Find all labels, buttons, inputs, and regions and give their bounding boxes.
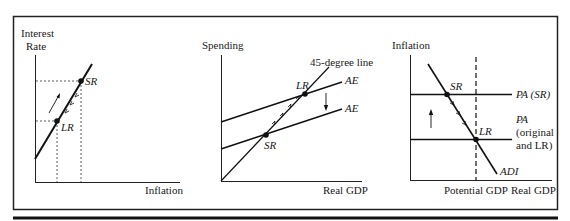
x-axis-label: Real GDP xyxy=(511,184,556,196)
policy-line xyxy=(35,64,92,159)
ae-upper-line xyxy=(221,82,342,122)
point-sr xyxy=(444,92,450,98)
point-sr-label: SR xyxy=(450,80,463,92)
point-sr-label: SR xyxy=(85,75,98,87)
y-axis-label: Inflation xyxy=(392,39,430,51)
point-sr xyxy=(263,132,269,138)
pa-original-label: and LR) xyxy=(516,139,553,152)
arrowhead-icon xyxy=(429,109,433,115)
potential-gdp-label: Potential GDP xyxy=(444,184,508,196)
point-lr-label: LR xyxy=(478,125,492,137)
pa-sr-label: PA (SR) xyxy=(515,88,550,101)
y-axis-label: Spending xyxy=(202,39,244,51)
point-lr-label: LR xyxy=(295,79,309,91)
point-lr xyxy=(54,118,60,124)
forty-five-degree-label: 45-degree line xyxy=(310,56,373,68)
macro-adjustment-diagram: Interest Rate Inflation SR LR Spending R… xyxy=(0,0,570,221)
x-axis-label: Real GDP xyxy=(323,184,368,196)
pa-original-label: PA xyxy=(515,113,528,125)
ae-upper-label: AE xyxy=(344,74,359,86)
adi-line xyxy=(428,64,497,174)
point-sr xyxy=(78,78,84,84)
point-sr-label: SR xyxy=(264,139,277,151)
y-axis-label: Interest xyxy=(21,27,54,39)
point-lr xyxy=(302,91,308,97)
pa-original-label: (original xyxy=(516,126,554,139)
arrowhead-icon xyxy=(324,105,328,111)
arrow-up-icon xyxy=(49,95,59,113)
panel-inflation: Inflation Potential GDP Real GDP PA (SR)… xyxy=(392,39,556,196)
panel-spending: Spending Real GDP 45-degree line AE AE L… xyxy=(202,39,373,196)
y-axis-label: Rate xyxy=(26,40,46,52)
point-lr-label: LR xyxy=(60,121,74,133)
ae-lower-label: AE xyxy=(344,102,359,114)
adi-label: ADI xyxy=(499,165,520,177)
point-lr xyxy=(473,137,479,143)
forty-five-degree-line xyxy=(221,67,329,181)
panel-interest-rate: Interest Rate Inflation SR LR xyxy=(21,27,183,196)
x-axis-label: Inflation xyxy=(145,184,183,196)
